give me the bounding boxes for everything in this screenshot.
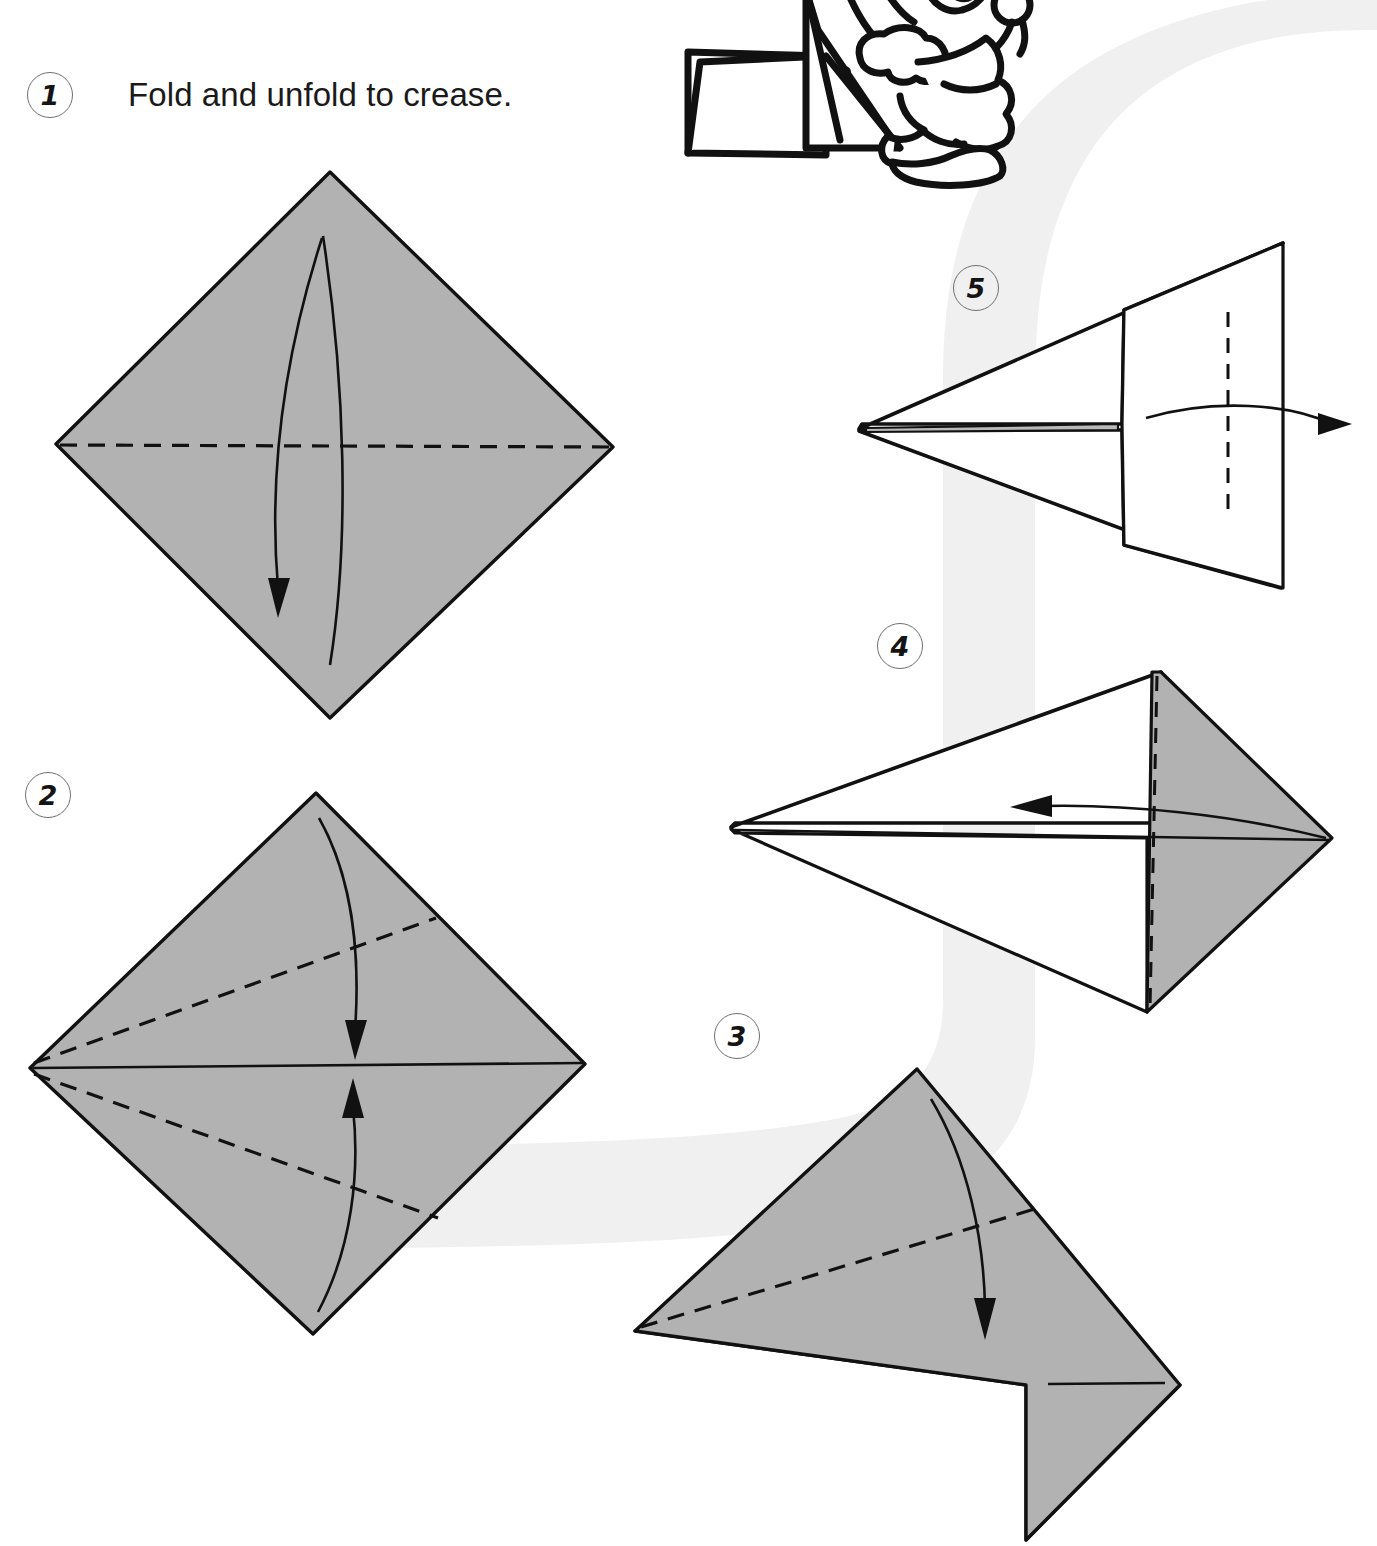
step-5-fold-arrow-head	[1318, 413, 1352, 435]
step-5-paper-right-panel	[1122, 243, 1283, 588]
origami-instruction-page: 1 Fold and unfold to crease. 2 3 4 5	[0, 0, 1377, 1546]
step-5-diagram	[0, 0, 1377, 1546]
